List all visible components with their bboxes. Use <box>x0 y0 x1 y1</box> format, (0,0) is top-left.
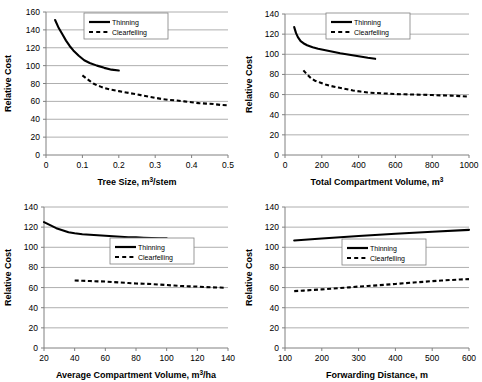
x-tick-label: 100 <box>278 353 292 363</box>
y-tick-label: 120 <box>265 29 279 39</box>
x-axis-title-base: Tree Size, m <box>97 177 149 187</box>
y-tick-label: 80 <box>31 79 41 89</box>
x-axis-title: Average Compartment Volume, m3/ha <box>56 369 217 380</box>
y-tick-label: 60 <box>29 283 39 293</box>
x-tick-label: 600 <box>388 160 402 170</box>
x-tick-label: 1000 <box>460 160 479 170</box>
y-tick-label: 100 <box>24 242 38 252</box>
y-tick-label: 60 <box>270 283 280 293</box>
chart-panel-total-compartment-volume: 02040608010012014002004006008001000Relat… <box>241 0 482 191</box>
y-tick-label: 140 <box>265 9 279 19</box>
legend-label-clearfelling: Clearfelling <box>370 255 405 263</box>
legend: ThinningClearfelling <box>326 13 410 39</box>
y-tick-label: 20 <box>29 323 39 333</box>
x-tick-label: 60 <box>101 353 111 363</box>
y-axis-title: Relative Cost <box>244 249 254 306</box>
x-axis-title-base: Total Compartment Volume, m <box>311 177 440 187</box>
y-tick-label: 100 <box>265 242 279 252</box>
y-tick-label: 120 <box>265 222 279 232</box>
y-tick-label: 120 <box>24 222 38 232</box>
x-tick-label: 400 <box>352 160 366 170</box>
y-tick-label: 140 <box>26 25 40 35</box>
y-tick-label: 0 <box>33 343 38 353</box>
x-tick-label: 800 <box>425 160 439 170</box>
y-tick-label: 80 <box>29 262 39 272</box>
legend-label-clearfelling: Clearfelling <box>138 254 173 262</box>
plot-area <box>44 207 228 348</box>
x-tick-label: 20 <box>39 353 49 363</box>
x-tick-label: 0 <box>283 160 288 170</box>
y-tick-label: 140 <box>265 202 279 212</box>
y-tick-label: 120 <box>26 43 40 53</box>
chart-total-compartment-volume: 02040608010012014002004006008001000Relat… <box>241 0 482 191</box>
x-tick-label: 40 <box>70 353 80 363</box>
y-tick-label: 20 <box>270 323 280 333</box>
plot-area <box>285 207 469 348</box>
x-axis-title-base: Average Compartment Volume, m <box>56 370 200 380</box>
x-axis-title-tail: /stem <box>153 177 177 187</box>
chart-panel-tree-size: 02040608010012014016000.10.20.30.40.5Rel… <box>0 0 241 191</box>
four-panel-chart-figure: 02040608010012014016000.10.20.30.40.5Rel… <box>0 0 482 382</box>
x-tick-label: 0.3 <box>149 160 161 170</box>
x-axis-title-base: Forwarding Distance, m <box>326 370 428 380</box>
y-tick-label: 40 <box>29 303 39 313</box>
legend: ThinningClearfelling <box>84 13 168 39</box>
legend-label-clearfelling: Clearfelling <box>354 29 389 37</box>
x-axis-title: Total Compartment Volume, m3 <box>311 176 444 187</box>
y-tick-label: 140 <box>24 202 38 212</box>
y-tick-label: 60 <box>31 96 41 106</box>
x-tick-label: 80 <box>131 353 141 363</box>
x-axis-title: Forwarding Distance, m <box>326 370 428 380</box>
y-tick-label: 40 <box>270 303 280 313</box>
y-tick-label: 40 <box>31 114 41 124</box>
y-tick-label: 80 <box>270 69 280 79</box>
y-tick-label: 40 <box>270 110 280 120</box>
x-tick-label: 0.5 <box>222 160 234 170</box>
legend: ThinningClearfelling <box>342 239 426 265</box>
y-tick-label: 60 <box>270 90 280 100</box>
x-tick-label: 0.2 <box>113 160 125 170</box>
x-axis-title: Tree Size, m3/stem <box>97 176 176 187</box>
x-tick-label: 0 <box>44 160 49 170</box>
y-tick-label: 100 <box>265 49 279 59</box>
y-tick-label: 0 <box>274 150 279 160</box>
legend-label-thinning: Thinning <box>138 244 165 252</box>
y-tick-label: 80 <box>270 262 280 272</box>
x-tick-label: 0.4 <box>186 160 198 170</box>
x-tick-label: 600 <box>462 353 476 363</box>
legend-label-thinning: Thinning <box>112 19 139 27</box>
chart-average-compartment-volume: 02040608010012014020406080100120140Relat… <box>0 191 241 382</box>
chart-tree-size: 02040608010012014016000.10.20.30.40.5Rel… <box>0 0 241 191</box>
chart-panel-average-compartment-volume: 02040608010012014020406080100120140Relat… <box>0 191 241 382</box>
y-tick-label: 100 <box>26 61 40 71</box>
x-axis-title-tail: /ha <box>203 370 217 380</box>
y-axis-title: Relative Cost <box>3 55 13 112</box>
x-tick-label: 0.1 <box>76 160 88 170</box>
legend-label-clearfelling: Clearfelling <box>112 29 147 37</box>
x-tick-label: 300 <box>352 353 366 363</box>
y-tick-label: 160 <box>26 7 40 17</box>
x-axis-title-superscript: 3 <box>440 176 444 183</box>
y-tick-label: 0 <box>274 343 279 353</box>
x-tick-label: 100 <box>160 353 174 363</box>
legend-label-thinning: Thinning <box>370 245 397 253</box>
x-tick-label: 400 <box>388 353 402 363</box>
y-axis-title: Relative Cost <box>244 56 254 113</box>
chart-panel-forwarding-distance: 020406080100120140100200300400500600Rela… <box>241 191 482 382</box>
y-tick-label: 0 <box>35 150 40 160</box>
legend: ThinningClearfelling <box>110 238 194 264</box>
x-tick-label: 120 <box>190 353 204 363</box>
x-tick-label: 200 <box>315 353 329 363</box>
y-tick-label: 20 <box>270 130 280 140</box>
x-tick-label: 200 <box>315 160 329 170</box>
y-tick-label: 20 <box>31 132 41 142</box>
y-axis-title: Relative Cost <box>3 249 13 306</box>
x-tick-label: 500 <box>425 353 439 363</box>
x-tick-label: 140 <box>221 353 235 363</box>
legend-label-thinning: Thinning <box>354 19 381 27</box>
chart-forwarding-distance: 020406080100120140100200300400500600Rela… <box>241 191 482 382</box>
